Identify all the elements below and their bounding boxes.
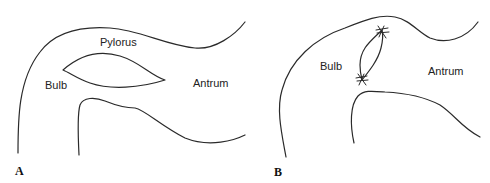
- panel-a-label-antrum: Antrum: [193, 78, 228, 89]
- panel-a-letter: A: [15, 165, 24, 177]
- diagram-canvas: [0, 0, 490, 183]
- panel-b-letter: B: [274, 166, 282, 178]
- panel-b-label-antrum: Antrum: [428, 66, 463, 77]
- panel-b-sutured-channel: [360, 30, 383, 80]
- panel-a-label-bulb: Bulb: [45, 80, 67, 91]
- pyloroplasty-diagram: Pylorus Bulb Antrum A Bulb Antrum B: [0, 0, 490, 183]
- panel-a-pyloric-channel: [63, 54, 165, 88]
- panel-b-suture-bottom: [356, 74, 368, 85]
- panel-a-lower-wall: [78, 98, 245, 155]
- panel-b-lower-wall: [351, 91, 480, 143]
- panel-b-label-bulb: Bulb: [320, 61, 342, 72]
- panel-a-label-pylorus: Pylorus: [100, 37, 137, 48]
- panel-b-drawing: [279, 16, 480, 157]
